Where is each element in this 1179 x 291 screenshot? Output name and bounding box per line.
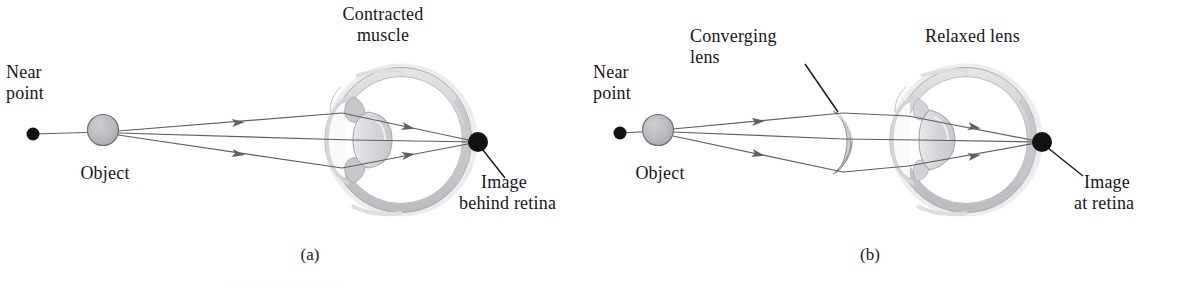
- label-contracted-muscle-line2: muscle: [328, 25, 438, 46]
- panel-a-graphics: [27, 68, 506, 215]
- label-image-a-line2: behind retina: [459, 193, 556, 214]
- caption-panel-b: (b): [835, 245, 905, 265]
- caption-panel-a: (a): [275, 245, 345, 265]
- label-object-b: Object: [615, 163, 705, 184]
- converging-lens-b: [833, 111, 852, 174]
- arrowhead-upper-in-a: [232, 118, 246, 127]
- object-circle-a: [88, 115, 119, 146]
- label-near-point-a-line1: Near: [6, 62, 42, 83]
- image-leader-b: [1048, 148, 1083, 176]
- label-converging-lens-line2: lens: [690, 47, 720, 68]
- label-image-b-line2: at retina: [1074, 193, 1134, 214]
- label-image-a-line1: Image: [481, 172, 527, 193]
- converging-lens-shade-b: [833, 111, 851, 174]
- label-near-point-b-line1: Near: [593, 62, 629, 83]
- ray-axis-to-lens-b: [673, 132, 843, 139]
- near-point-dot-b: [614, 127, 627, 140]
- near-point-dot-a: [27, 128, 40, 141]
- ray-upper-in-a: [118, 113, 342, 131]
- label-object-a: Object: [60, 163, 150, 184]
- label-relaxed-lens: Relaxed lens: [925, 26, 1020, 47]
- label-contracted-muscle-line1: Contracted: [328, 4, 438, 25]
- image-dot-a: [468, 132, 488, 152]
- panel-b-graphics: [614, 64, 1084, 214]
- trimmed-caption-remnant: · · · · · · · · · · · · · · · · · ·: [230, 279, 950, 291]
- ray-lower-in-a: [118, 135, 342, 168]
- converging-lens-leader-b: [805, 64, 838, 112]
- label-converging-lens-line1: Converging: [690, 26, 777, 47]
- arrowhead-lower-to-lens-b: [751, 149, 765, 160]
- label-near-point-b-line2: point: [593, 83, 631, 104]
- label-near-point-a-line2: point: [6, 83, 44, 104]
- figure-canvas: Contracted muscle Near point Object Imag…: [0, 0, 1179, 291]
- label-image-b-line1: Image: [1084, 172, 1130, 193]
- ray-axis-in-a: [118, 133, 352, 140]
- object-circle-b: [643, 115, 674, 146]
